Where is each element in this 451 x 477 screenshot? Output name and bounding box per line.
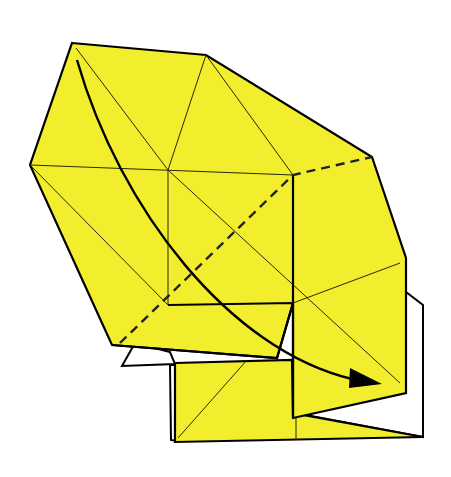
origami-diagram	[0, 0, 451, 477]
